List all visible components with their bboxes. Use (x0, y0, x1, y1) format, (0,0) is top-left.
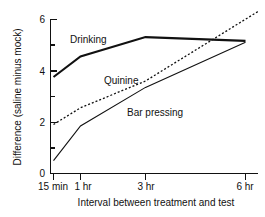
line-chart: 6 4 2 0 15 min 1 hr 3 hr 6 hr Interval b… (0, 0, 265, 217)
series-label-drinking: Drinking (70, 34, 107, 45)
x-axis-title: Interval between treatment and test (78, 197, 235, 208)
series-line-bar-pressing (54, 42, 246, 160)
y-tick-label-4: 4 (39, 66, 45, 77)
y-tick-label-2: 2 (39, 117, 45, 128)
x-tick-label-3hr: 3 hr (137, 181, 155, 192)
y-tick-label-6: 6 (39, 14, 45, 25)
x-tick-label-6hr: 6 hr (236, 181, 254, 192)
y-axis-title: Difference (saline minus mock) (12, 28, 23, 165)
x-tick-label-15min: 15 min (38, 181, 68, 192)
x-tick-label-1hr: 1 hr (74, 181, 92, 192)
y-tick-label-0: 0 (39, 168, 45, 179)
series-label-bar-pressing: Bar pressing (127, 107, 183, 118)
series-label-quinine: Quinine (104, 75, 139, 86)
chart-figure: 6 4 2 0 15 min 1 hr 3 hr 6 hr Interval b… (0, 0, 265, 217)
